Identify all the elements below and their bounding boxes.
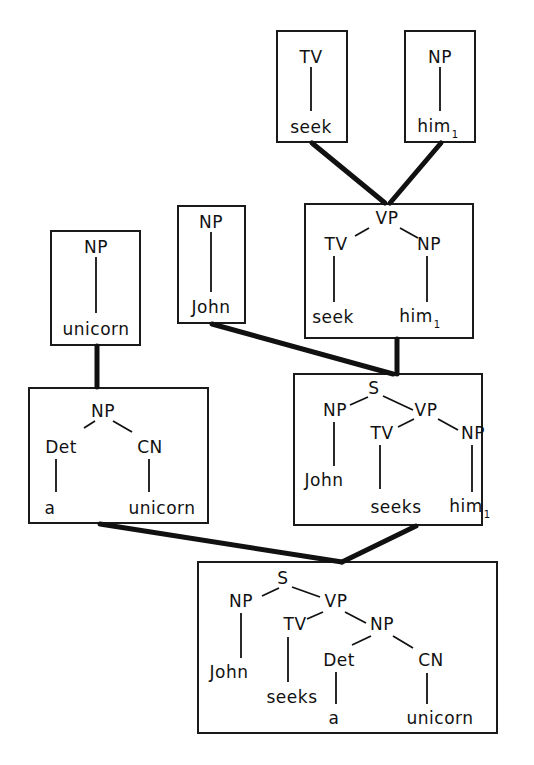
node-label: a xyxy=(45,500,56,517)
node-label-text: NP xyxy=(199,212,223,232)
node-label-text: a xyxy=(329,708,340,728)
node-label: Det xyxy=(323,652,355,669)
node-label: seek xyxy=(290,119,332,136)
node-label: S xyxy=(368,380,379,397)
node-label: NP xyxy=(199,214,223,231)
node-label: NP xyxy=(84,239,108,256)
node-label: Det xyxy=(45,439,77,456)
node-label-subscript: 1 xyxy=(434,319,441,330)
node-label: seek xyxy=(312,309,354,326)
node-label-text: a xyxy=(45,498,56,518)
node-label: NP xyxy=(91,403,115,420)
node-label-text: Det xyxy=(45,437,77,457)
node-label-text: him xyxy=(449,496,483,516)
node-label-text: CN xyxy=(137,437,163,457)
node-label-text: NP xyxy=(461,423,485,443)
node-label: TV xyxy=(283,616,306,633)
node-label: John xyxy=(210,664,249,681)
composition-connector-np-det-cn-to-s-final xyxy=(100,524,342,562)
node-label-text: him xyxy=(399,306,433,326)
node-label-text: CN xyxy=(418,650,444,670)
node-label: CN xyxy=(418,652,444,669)
composition-connector-np-him-to-vp xyxy=(390,143,441,203)
node-label-text: VP xyxy=(325,591,348,611)
node-label-text: NP xyxy=(229,591,253,611)
node-label-text: unicorn xyxy=(63,319,130,339)
node-label-text: unicorn xyxy=(407,708,474,728)
node-label: John xyxy=(305,472,344,489)
node-label: NP xyxy=(461,425,485,442)
node-label: unicorn xyxy=(129,500,196,517)
node-label: S xyxy=(277,570,288,587)
node-label-text: seeks xyxy=(267,687,318,707)
node-label-text: NP xyxy=(91,401,115,421)
node-label: unicorn xyxy=(63,321,130,338)
node-label-text: seek xyxy=(312,307,354,327)
node-label-text: TV xyxy=(324,234,347,254)
node-label-subscript: 1 xyxy=(484,509,491,520)
node-label-text: NP xyxy=(84,237,108,257)
node-label: TV xyxy=(299,49,322,66)
node-label-text: unicorn xyxy=(129,498,196,518)
node-label-text: TV xyxy=(370,423,393,443)
node-label: TV xyxy=(370,425,393,442)
node-label: him1 xyxy=(417,118,458,137)
node-label-text: NP xyxy=(428,47,452,67)
node-label-text: TV xyxy=(283,614,306,634)
node-label: VP xyxy=(325,593,348,610)
node-label: a xyxy=(329,710,340,727)
node-label: TV xyxy=(324,236,347,253)
node-label-text: John xyxy=(305,470,344,490)
node-label-text: NP xyxy=(370,614,394,634)
node-label-text: seek xyxy=(290,117,332,137)
node-label: NP xyxy=(370,616,394,633)
node-label-text: VP xyxy=(376,208,399,228)
node-label-text: seeks xyxy=(371,497,422,517)
node-label: him1 xyxy=(399,308,440,327)
node-label-text: S xyxy=(368,378,379,398)
node-label-subscript: 1 xyxy=(452,129,459,140)
node-label-text: John xyxy=(192,297,231,317)
node-label: John xyxy=(192,299,231,316)
node-label: seeks xyxy=(371,499,422,516)
node-label: CN xyxy=(137,439,163,456)
node-label-text: TV xyxy=(299,47,322,67)
analysis-tree-diagram: TVseekNPhim1VPTVNPseekhim1NPJohnNPunicor… xyxy=(0,0,534,765)
node-label: NP xyxy=(428,49,452,66)
node-label-text: S xyxy=(277,568,288,588)
composition-connector-tv-seek-to-vp xyxy=(312,143,385,203)
node-label: VP xyxy=(376,210,399,227)
node-label: NP xyxy=(323,402,347,419)
node-label: him1 xyxy=(449,498,490,517)
node-label-text: him xyxy=(417,116,451,136)
node-label: NP xyxy=(417,236,441,253)
node-label: unicorn xyxy=(407,710,474,727)
node-label-text: NP xyxy=(323,400,347,420)
composition-connector-s-him-to-s-final xyxy=(342,526,416,562)
node-label-text: NP xyxy=(417,234,441,254)
node-label-text: John xyxy=(210,662,249,682)
node-label: VP xyxy=(415,402,438,419)
node-label: NP xyxy=(229,593,253,610)
node-label-text: VP xyxy=(415,400,438,420)
node-label-text: Det xyxy=(323,650,355,670)
node-label: seeks xyxy=(267,689,318,706)
